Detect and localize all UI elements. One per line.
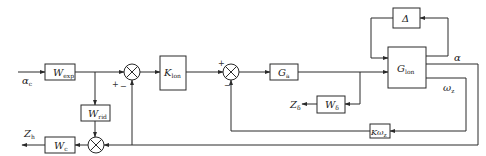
- signal-z-delta: Zδ: [289, 99, 301, 111]
- block-w-c: Wc: [45, 137, 75, 153]
- wire-branch-wdelta: [345, 72, 360, 104]
- summing-junction-1: [124, 64, 140, 80]
- signal-alpha: α: [454, 52, 461, 63]
- signal-alpha-c: αc: [22, 75, 33, 87]
- signal-z-h: Zh: [23, 128, 35, 140]
- block-g-a: Ga: [270, 64, 298, 80]
- block-k-lon: Klon: [160, 56, 186, 90]
- summing-junction-3: [88, 137, 104, 153]
- sum1-plus-sign: +: [112, 80, 119, 89]
- block-g-lon: Glon: [388, 47, 426, 88]
- svg-text:Δ: Δ: [401, 13, 409, 24]
- sum2-minus-sign: −: [224, 81, 231, 90]
- control-block-diagram: Wexp Wrid Wc Klon Ga Glon Δ Wδ Kωz: [0, 0, 486, 156]
- block-delta: Δ: [393, 8, 420, 28]
- block-w-exp: Wexp: [45, 64, 75, 80]
- summing-junction-2: [223, 64, 239, 80]
- sum1-minus-sign: −: [120, 82, 127, 91]
- block-k-omega: Kωz: [370, 124, 390, 138]
- signal-omega-z: ωz: [443, 82, 454, 94]
- block-w-rid: Wrid: [81, 105, 110, 121]
- block-w-delta: Wδ: [317, 96, 345, 113]
- sum2-plus-sign: +: [218, 59, 225, 68]
